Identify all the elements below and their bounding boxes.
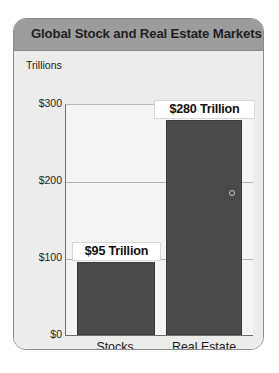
y-tick-label-100: $100 <box>39 251 62 263</box>
plot-area: $95 Trillion $280 Trillion <box>65 104 253 336</box>
y-axis-title: Trillions <box>26 59 62 71</box>
y-tick-label-0: $0 <box>50 328 62 340</box>
chart-title: Global Stock and Real Estate Markets <box>31 26 262 41</box>
chart-plot-body: Trillions $300 $200 $100 $0 $95 Trillion… <box>14 51 263 350</box>
category-label-real-estate: Real Estate <box>154 340 254 350</box>
bar-real-estate <box>166 120 242 335</box>
bar-stocks <box>77 262 155 335</box>
y-tick-label-300: $300 <box>39 97 62 109</box>
y-tick-label-200: $200 <box>39 174 62 186</box>
chart-header-band: Global Stock and Real Estate Markets <box>14 19 263 51</box>
bar-value-label-stocks: $95 Trillion <box>72 242 161 261</box>
scan-speck-artifact <box>229 190 235 196</box>
chart-card: Global Stock and Real Estate Markets Tri… <box>13 18 264 350</box>
y-axis-tick-labels: $300 $200 $100 $0 <box>14 104 62 336</box>
bar-value-label-real-estate: $280 Trillion <box>154 100 255 119</box>
category-label-stocks: Stocks <box>65 340 165 350</box>
